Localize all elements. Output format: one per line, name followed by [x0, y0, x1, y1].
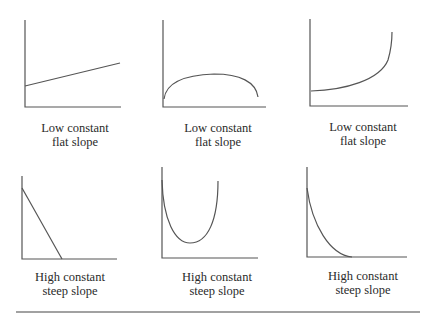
panel-1-curve	[25, 63, 120, 86]
panel-6-label: High constant steep slope	[293, 269, 433, 297]
panel-4-curve	[22, 188, 62, 259]
panel-2-label-line1: Low constant	[148, 121, 288, 135]
panel-3-label-line1: Low constant	[293, 120, 433, 134]
panel-3-axes	[310, 19, 408, 106]
panel-5-curve	[162, 180, 218, 243]
panel-1-axes	[25, 20, 121, 107]
panel-6-curve	[307, 188, 352, 257]
panel-1-graph	[25, 20, 121, 107]
panel-3-label: Low constant flat slope	[293, 120, 433, 148]
panel-2-label: Low constant flat slope	[148, 121, 288, 149]
panel-5-graph	[162, 167, 258, 258]
panel-5-label-line2: steep slope	[147, 284, 287, 298]
panel-2-axes	[163, 20, 266, 107]
panel-6-axes	[307, 167, 407, 257]
panel-5-label-line1: High constant	[147, 270, 287, 284]
panel-3-label-line2: flat slope	[293, 134, 433, 148]
panel-6-label-line1: High constant	[293, 269, 433, 283]
panel-1-label: Low constant flat slope	[5, 121, 145, 149]
panel-4-label: High constant steep slope	[0, 270, 140, 298]
panel-2-graph	[163, 20, 266, 107]
panel-5-axes	[162, 167, 258, 258]
panel-4-axes	[22, 176, 117, 259]
panel-1-label-line1: Low constant	[5, 121, 145, 135]
panel-1-label-line2: flat slope	[5, 135, 145, 149]
panel-4-label-line2: steep slope	[0, 284, 140, 298]
panel-4-label-line1: High constant	[0, 270, 140, 284]
panel-4-graph	[22, 176, 117, 259]
panel-3-curve	[311, 32, 392, 91]
panel-2-label-line2: flat slope	[148, 135, 288, 149]
panel-6-label-line2: steep slope	[293, 283, 433, 297]
panel-6-graph	[307, 167, 407, 257]
panel-2-curve	[164, 74, 258, 99]
panel-5-label: High constant steep slope	[147, 270, 287, 298]
panel-3-graph	[310, 19, 408, 106]
